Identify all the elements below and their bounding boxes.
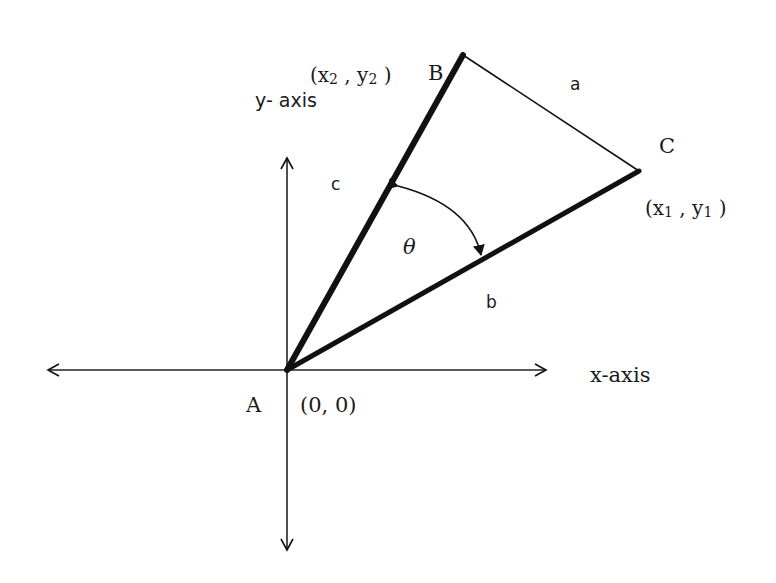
side-a <box>463 55 639 171</box>
angle-theta-label: θ <box>403 235 416 259</box>
triangle-diagram: (x2 , y2 ) B y- axis a C (x1 , y1 ) c θ … <box>0 0 776 583</box>
vertex-b-coord: (x2 , y2 ) <box>310 63 391 87</box>
side-c-label: c <box>331 174 340 194</box>
vertex-c-coord: (x1 , y1 ) <box>645 196 726 220</box>
side-a-label: a <box>570 74 580 94</box>
vertex-c-label: C <box>659 134 675 158</box>
vertex-b-label: B <box>428 61 443 85</box>
vertex-a-label: A <box>245 393 262 417</box>
y-axis-label: y- axis <box>255 89 317 111</box>
side-b-label: b <box>486 292 497 312</box>
x-axis-label: x-axis <box>590 363 650 387</box>
origin-coord-label: (0, 0) <box>300 393 356 417</box>
